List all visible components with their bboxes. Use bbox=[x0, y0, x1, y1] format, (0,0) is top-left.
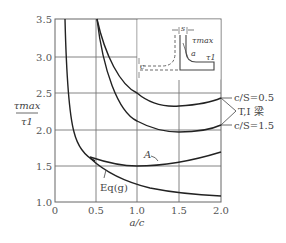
x-axis-ticks: 0 0.5 1.0 1.5 2.0 bbox=[52, 205, 229, 216]
svg-text:2.5: 2.5 bbox=[36, 88, 52, 99]
svg-text:1.5: 1.5 bbox=[171, 205, 187, 216]
svg-text:τmax: τmax bbox=[14, 100, 41, 111]
svg-text:s: s bbox=[181, 24, 185, 33]
label-ti-beam: T,I 梁 bbox=[238, 105, 264, 117]
label-a-curve: A bbox=[143, 149, 151, 160]
svg-text:0.5: 0.5 bbox=[88, 205, 104, 216]
y-axis-ticks: 3.5 3.0 2.5 2.0 1.5 1.0 bbox=[36, 14, 52, 208]
svg-text:1.5: 1.5 bbox=[36, 161, 52, 172]
svg-text:a: a bbox=[191, 49, 196, 58]
chart: 3.5 3.0 2.5 2.0 1.5 1.0 0 0.5 1.0 1.5 2.… bbox=[0, 0, 286, 243]
curve-steep bbox=[65, 19, 95, 161]
svg-text:0: 0 bbox=[52, 205, 58, 216]
curve-a bbox=[90, 152, 221, 166]
svg-text:τmax: τmax bbox=[192, 36, 214, 45]
svg-text:2.0: 2.0 bbox=[36, 125, 52, 136]
svg-text:τ1: τ1 bbox=[206, 53, 216, 62]
y-axis-label: τmax τ1 bbox=[14, 100, 41, 127]
svg-text:3.5: 3.5 bbox=[36, 14, 52, 25]
svg-text:c: c bbox=[140, 62, 145, 71]
label-cs15: c/S=1.5 bbox=[234, 120, 274, 131]
svg-text:1.0: 1.0 bbox=[129, 205, 145, 216]
svg-text:1.0: 1.0 bbox=[36, 197, 52, 208]
svg-text:3.0: 3.0 bbox=[36, 52, 52, 63]
x-axis-label: a/c bbox=[130, 217, 145, 228]
svg-text:τ1: τ1 bbox=[21, 116, 33, 127]
svg-text:2.0: 2.0 bbox=[213, 205, 229, 216]
label-cs05: c/S=0.5 bbox=[234, 92, 274, 103]
label-eqg: Eq(g) bbox=[100, 182, 128, 193]
